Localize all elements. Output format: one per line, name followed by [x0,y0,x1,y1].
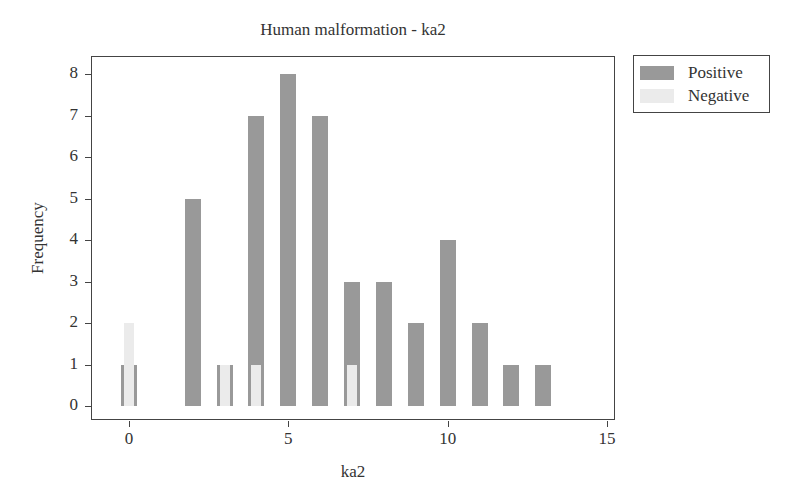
bar-negative-x0 [124,323,134,406]
y-tick-label: 7 [48,106,78,124]
y-tick [85,157,91,158]
x-tick [129,421,130,427]
bar-positive-x9 [408,323,424,406]
y-axis-label: Frequency [28,202,48,274]
y-tick [85,406,91,407]
x-tick [288,421,289,427]
bar-negative-x7 [347,365,357,407]
y-tick-label: 4 [48,230,78,248]
legend: Positive Negative [633,55,770,113]
chart-title: Human malformation - ka2 [91,20,615,40]
legend-swatch-positive [640,66,674,80]
bar-positive-x10 [440,240,456,406]
x-tick [607,421,608,427]
x-axis-label: ka2 [91,462,615,482]
legend-item-negative: Negative [640,86,749,106]
y-tick-label: 6 [48,147,78,165]
bar-positive-x6 [312,116,328,407]
y-tick-label: 5 [48,189,78,207]
y-tick-label: 0 [48,396,78,414]
y-tick [85,240,91,241]
y-tick [85,199,91,200]
bar-positive-x4 [248,116,264,407]
legend-swatch-negative [640,89,674,103]
x-tick-label: 5 [268,429,308,449]
x-tick [448,421,449,427]
bar-positive-x11 [472,323,488,406]
bar-positive-x13 [535,365,551,407]
legend-label-negative: Negative [688,86,749,106]
bar-positive-x12 [503,365,519,407]
bar-negative-x4 [251,365,261,407]
x-tick-label: 10 [428,429,468,449]
legend-item-positive: Positive [640,63,743,83]
bar-negative-x3 [220,365,230,407]
bar-positive-x5 [280,74,296,406]
legend-label-positive: Positive [688,63,743,83]
plot-area: 012345678051015 [91,56,615,420]
bar-positive-x8 [376,282,392,407]
y-tick [85,365,91,366]
y-tick-label: 1 [48,355,78,373]
y-tick-label: 3 [48,272,78,290]
y-tick [85,116,91,117]
y-tick-label: 8 [48,64,78,82]
y-tick [85,74,91,75]
x-tick-label: 15 [587,429,627,449]
x-tick-label: 0 [109,429,149,449]
y-tick [85,282,91,283]
y-tick [85,323,91,324]
bar-positive-x2 [185,199,201,407]
y-tick-label: 2 [48,313,78,331]
